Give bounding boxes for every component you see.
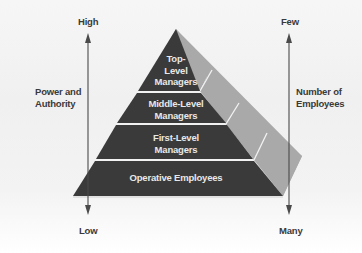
right-axis-bottom-label: Many <box>279 225 302 236</box>
pyramid-diagram: High Low Power and Authority Few Many Nu… <box>0 0 362 253</box>
level-operative-label: Operative Employees <box>110 172 242 184</box>
left-axis-title-line1: Power and <box>35 86 81 97</box>
level-first-label: First-Level Managers <box>130 132 222 155</box>
level-middle-label: Middle-Level Managers <box>130 98 222 121</box>
level-top-label: Top- Level Managers <box>150 53 202 88</box>
left-axis-bottom-label: Low <box>79 225 97 236</box>
right-axis-top-label: Few <box>281 16 299 27</box>
right-axis-title-line2: Employees <box>296 98 344 109</box>
arrow-up-icon <box>85 33 91 43</box>
arrow-up-icon <box>286 33 292 43</box>
pyramid-graphic <box>0 0 362 253</box>
arrow-down-icon <box>286 205 292 215</box>
arrow-down-icon <box>85 205 91 215</box>
right-axis-title-line1: Number of <box>296 86 342 97</box>
left-axis-top-label: High <box>78 16 98 27</box>
left-axis-title-line2: Authority <box>35 98 75 109</box>
